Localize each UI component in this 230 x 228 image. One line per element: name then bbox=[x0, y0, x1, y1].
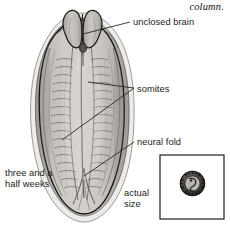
label-somites: somites bbox=[137, 84, 169, 95]
embryo-illustration bbox=[0, 0, 230, 228]
label-embryo-age: three and a half weeks bbox=[5, 168, 55, 191]
actual-size-box bbox=[160, 155, 224, 219]
caption-column-fragment: column. bbox=[189, 2, 224, 13]
actual-size-specimen bbox=[180, 171, 204, 195]
label-unclosed-brain: unclosed brain bbox=[133, 17, 194, 28]
label-neural-fold: neural fold bbox=[137, 137, 181, 148]
embryo-figure: column. unclosed brain somites neural fo… bbox=[0, 0, 230, 228]
label-actual-size: actual size bbox=[124, 188, 158, 210]
